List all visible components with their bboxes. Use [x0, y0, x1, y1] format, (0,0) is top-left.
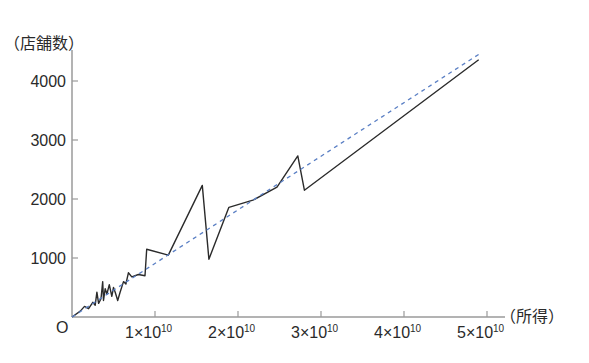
x-tick-label: 5×1010: [457, 323, 505, 341]
axes: [72, 50, 505, 317]
x-tick-label: 1×1010: [125, 323, 173, 341]
x-tick-label: 4×1010: [374, 323, 422, 341]
data-line: [72, 60, 479, 317]
chart: 1000200030004000 1×10102×10103×10104×101…: [0, 0, 589, 363]
y-tick-label: 3000: [30, 132, 66, 149]
x-axis-title: （所得）: [500, 307, 564, 326]
series: [72, 54, 479, 317]
x-tick-label: 3×1010: [291, 323, 339, 341]
y-ticks: 1000200030004000: [30, 73, 78, 267]
y-tick-label: 2000: [30, 191, 66, 208]
trend-line: [72, 54, 479, 317]
y-tick-label: 4000: [30, 73, 66, 90]
y-axis-title: （店舗数）: [4, 34, 84, 53]
origin-label: O: [56, 319, 68, 336]
x-tick-label: 2×1010: [208, 323, 256, 341]
y-tick-label: 1000: [30, 250, 66, 267]
x-ticks: 1×10102×10103×10104×10105×1010: [125, 311, 505, 341]
